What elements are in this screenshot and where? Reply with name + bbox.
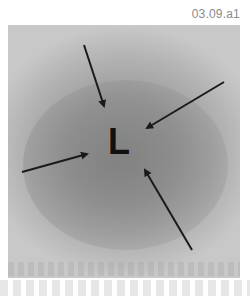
- arrow-top-icon: [84, 45, 104, 106]
- page-bleed-through-text: [0, 280, 250, 296]
- arrow-bottom-icon: [145, 170, 192, 250]
- arrow-left-icon: [22, 154, 87, 172]
- low-pressure-label: L: [108, 124, 130, 160]
- arrow-right-icon: [147, 82, 224, 128]
